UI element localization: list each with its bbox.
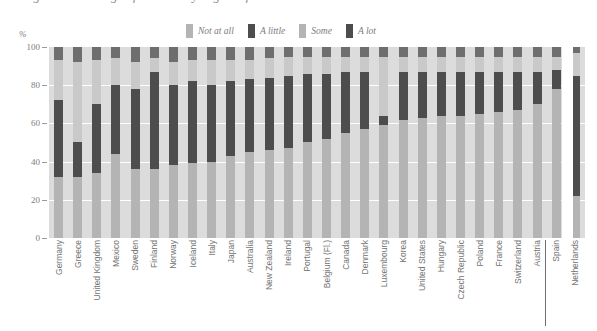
stacked-bar[interactable] bbox=[303, 47, 312, 238]
bar-segment-a-little[interactable] bbox=[475, 72, 484, 114]
bar-segment-not-at-all[interactable] bbox=[92, 173, 101, 238]
bar-segment-not-at-all[interactable] bbox=[207, 162, 216, 238]
bar-segment-a-lot[interactable] bbox=[303, 47, 312, 57]
bar-segment-a-little[interactable] bbox=[265, 78, 274, 151]
bar-segment-not-at-all[interactable] bbox=[111, 154, 120, 238]
bar-segment-some[interactable] bbox=[494, 57, 503, 72]
bar-slot[interactable] bbox=[489, 47, 508, 238]
bar-segment-a-lot[interactable] bbox=[131, 47, 140, 62]
stacked-bar[interactable] bbox=[379, 47, 388, 238]
bar-segment-some[interactable] bbox=[437, 57, 446, 72]
bar-segment-a-lot[interactable] bbox=[513, 47, 522, 57]
bar-segment-some[interactable] bbox=[207, 60, 216, 85]
bar-segment-a-little[interactable] bbox=[54, 100, 63, 176]
bar-slot[interactable] bbox=[279, 47, 298, 238]
bar-segment-not-at-all[interactable] bbox=[379, 125, 388, 238]
bar-segment-some[interactable] bbox=[341, 57, 350, 72]
stacked-bar[interactable] bbox=[284, 47, 293, 238]
bar-segment-a-lot[interactable] bbox=[92, 47, 101, 60]
bar-segment-a-lot[interactable] bbox=[54, 47, 63, 60]
bar-segment-some[interactable] bbox=[379, 57, 388, 116]
bar-segment-a-little[interactable] bbox=[456, 72, 465, 116]
bar-segment-a-lot[interactable] bbox=[418, 47, 427, 57]
bar-segment-a-lot[interactable] bbox=[226, 47, 235, 60]
bar-slot[interactable] bbox=[68, 47, 87, 238]
bar-segment-some[interactable] bbox=[418, 57, 427, 72]
bar-segment-a-lot[interactable] bbox=[379, 47, 388, 57]
bar-segment-a-lot[interactable] bbox=[360, 47, 369, 57]
bar-segment-some[interactable] bbox=[513, 57, 522, 72]
bar-segment-some[interactable] bbox=[284, 57, 293, 76]
stacked-bar[interactable] bbox=[188, 47, 197, 238]
bar-segment-a-little[interactable] bbox=[303, 74, 312, 143]
stacked-bar[interactable] bbox=[513, 47, 522, 238]
stacked-bar[interactable] bbox=[341, 47, 350, 238]
bar-segment-a-lot[interactable] bbox=[533, 47, 542, 57]
bar-segment-some[interactable] bbox=[73, 62, 82, 142]
bar-segment-some[interactable] bbox=[226, 60, 235, 81]
bar-segment-some[interactable] bbox=[303, 57, 312, 74]
bar-segment-not-at-all[interactable] bbox=[303, 142, 312, 238]
bar-segment-a-little[interactable] bbox=[552, 70, 561, 89]
bar-segment-a-lot[interactable] bbox=[169, 47, 178, 62]
bar-slot[interactable] bbox=[298, 47, 317, 238]
bar-slot[interactable] bbox=[508, 47, 527, 238]
stacked-bar[interactable] bbox=[322, 47, 331, 238]
bar-segment-a-lot[interactable] bbox=[188, 47, 197, 60]
bar-slot[interactable] bbox=[260, 47, 279, 238]
bar-slot[interactable] bbox=[470, 47, 489, 238]
bar-segment-a-lot[interactable] bbox=[111, 47, 120, 58]
stacked-bar[interactable] bbox=[437, 47, 446, 238]
bar-segment-some[interactable] bbox=[265, 58, 274, 77]
bar-segment-a-little[interactable] bbox=[437, 72, 446, 116]
bar-segment-not-at-all[interactable] bbox=[360, 129, 369, 238]
bar-segment-some[interactable] bbox=[533, 57, 542, 72]
bar-segment-a-lot[interactable] bbox=[552, 47, 561, 57]
bar-segment-not-at-all[interactable] bbox=[399, 120, 408, 238]
bar-segment-some[interactable] bbox=[360, 57, 369, 72]
bar-slot[interactable] bbox=[145, 47, 164, 238]
bar-segment-a-lot[interactable] bbox=[437, 47, 446, 57]
bar-segment-a-lot[interactable] bbox=[284, 47, 293, 57]
bar-segment-a-lot[interactable] bbox=[399, 47, 408, 57]
bar-segment-some[interactable] bbox=[169, 62, 178, 85]
stacked-bar[interactable] bbox=[552, 47, 561, 238]
bar-segment-not-at-all[interactable] bbox=[494, 112, 503, 238]
bar-segment-some[interactable] bbox=[54, 60, 63, 100]
bar-segment-some[interactable] bbox=[245, 60, 254, 79]
bar-slot[interactable] bbox=[240, 47, 259, 238]
bar-segment-not-at-all[interactable] bbox=[513, 110, 522, 238]
bar-segment-not-at-all[interactable] bbox=[533, 104, 542, 238]
bar-segment-a-lot[interactable] bbox=[73, 47, 82, 62]
bar-segment-a-little[interactable] bbox=[169, 85, 178, 165]
bar-slot[interactable] bbox=[202, 47, 221, 238]
bar-segment-a-little[interactable] bbox=[245, 79, 254, 152]
bar-segment-not-at-all[interactable] bbox=[131, 169, 140, 238]
bar-slot[interactable] bbox=[374, 47, 393, 238]
legend-item[interactable]: Some bbox=[299, 23, 332, 38]
bar-segment-not-at-all[interactable] bbox=[73, 177, 82, 238]
bar-segment-a-little[interactable] bbox=[494, 72, 503, 112]
stacked-bar[interactable] bbox=[418, 47, 427, 238]
bar-segment-a-lot[interactable] bbox=[265, 47, 274, 58]
bar-segment-a-little[interactable] bbox=[131, 89, 140, 169]
bar-segment-a-little[interactable] bbox=[322, 74, 331, 139]
stacked-bar[interactable] bbox=[169, 47, 178, 238]
stacked-bar[interactable] bbox=[54, 47, 63, 238]
bar-segment-a-lot[interactable] bbox=[150, 47, 159, 58]
bar-segment-a-little[interactable] bbox=[513, 72, 522, 110]
bar-slot[interactable] bbox=[394, 47, 413, 238]
bar-segment-a-little[interactable] bbox=[360, 72, 369, 129]
stacked-bar[interactable] bbox=[73, 47, 82, 238]
bar-segment-some[interactable] bbox=[188, 60, 197, 81]
bar-segment-a-lot[interactable] bbox=[341, 47, 350, 57]
bar-segment-a-little[interactable] bbox=[92, 104, 101, 173]
legend-item[interactable]: A little bbox=[248, 23, 285, 38]
stacked-bar[interactable] bbox=[399, 47, 408, 238]
bar-slot[interactable] bbox=[183, 47, 202, 238]
stacked-bar[interactable] bbox=[245, 47, 254, 238]
bar-segment-a-little[interactable] bbox=[111, 85, 120, 154]
bar-segment-a-little[interactable] bbox=[73, 142, 82, 176]
bar-segment-not-at-all[interactable] bbox=[437, 116, 446, 238]
bar-segment-some[interactable] bbox=[131, 62, 140, 89]
